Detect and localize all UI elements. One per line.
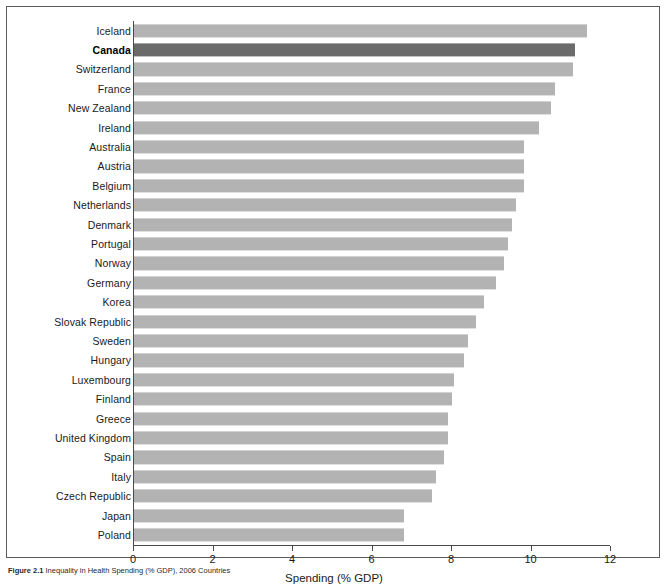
bar-row-label: Iceland (96, 25, 131, 37)
bar-row-label: Greece (96, 413, 131, 425)
bar-row-label: New Zealand (68, 102, 131, 114)
x-axis-tick-label: 6 (368, 553, 374, 565)
bar (134, 528, 404, 541)
bar (134, 412, 448, 425)
bar (134, 276, 496, 289)
x-axis-tick-label: 2 (209, 553, 215, 565)
x-axis-tick (451, 546, 452, 551)
bar-row: Netherlands (7, 196, 661, 215)
bar-row-label: Netherlands (73, 199, 131, 211)
x-axis-tick (292, 546, 293, 551)
x-axis-tick-label: 12 (604, 553, 616, 565)
bar-row-label: Norway (95, 257, 131, 269)
bar-row: Slovak Republic (7, 312, 661, 331)
bar-row: France (7, 79, 661, 98)
x-axis-tick (213, 546, 214, 551)
bar-row-label: France (98, 83, 131, 95)
bar-row-label: Canada (92, 44, 131, 56)
bar-row-label: Germany (87, 277, 131, 289)
bar-row: Switzerland (7, 60, 661, 79)
bar-row: Poland (7, 525, 661, 544)
x-axis-tick (372, 546, 373, 551)
x-axis-tick (133, 546, 134, 551)
bar (134, 102, 551, 115)
bar-row: Australia (7, 137, 661, 156)
bar-row: United Kingdom (7, 428, 661, 447)
bar-row: Portugal (7, 234, 661, 253)
bar-row-label: Portugal (91, 238, 131, 250)
bar-row-label: Denmark (88, 219, 131, 231)
figure-frame: IcelandCanadaSwitzerlandFranceNew Zealan… (6, 6, 660, 558)
bar-row: Korea (7, 293, 661, 312)
bar (134, 82, 555, 95)
bar (134, 334, 468, 347)
bar-row-label: Belgium (92, 180, 131, 192)
bar-row-label: Poland (98, 529, 131, 541)
bar (134, 354, 464, 367)
figure-caption-number: Figure 2.1 (8, 566, 43, 575)
bar (134, 199, 516, 212)
bar (134, 43, 575, 56)
bar (134, 140, 524, 153)
bar-row: Italy (7, 467, 661, 486)
bar (134, 509, 404, 522)
x-axis-tick (610, 546, 611, 551)
bar (134, 24, 587, 37)
x-axis-tick (531, 546, 532, 551)
bar-row: Denmark (7, 215, 661, 234)
bar (134, 470, 436, 483)
bar-row-label: Luxembourg (72, 374, 131, 386)
bar-row: Norway (7, 254, 661, 273)
x-axis-tick-label: 10 (524, 553, 536, 565)
bar-row-label: Sweden (92, 335, 131, 347)
bar (134, 451, 444, 464)
bar-row: Czech Republic (7, 487, 661, 506)
bar-chart-plot-area: IcelandCanadaSwitzerlandFranceNew Zealan… (7, 7, 661, 559)
bar-row: Greece (7, 409, 661, 428)
bar (134, 315, 476, 328)
figure-caption-text: Inequality in Health Spending (% GDP), 2… (46, 566, 231, 575)
bar (134, 160, 524, 173)
x-axis-tick-label: 8 (448, 553, 454, 565)
bar-row-label: Hungary (91, 354, 131, 366)
bar-row-label: Switzerland (76, 63, 131, 75)
bar (134, 179, 524, 192)
bar (134, 63, 573, 76)
bar-row: Spain (7, 448, 661, 467)
figure-caption: Figure 2.1 Inequality in Health Spending… (8, 566, 658, 575)
bar-row: Belgium (7, 176, 661, 195)
bar-row-label: Italy (111, 471, 131, 483)
bar-row: Austria (7, 157, 661, 176)
bar-row-label: United Kingdom (55, 432, 131, 444)
x-axis-tick-label: 0 (130, 553, 136, 565)
bar-row: Canada (7, 40, 661, 59)
bar (134, 490, 432, 503)
bar (134, 218, 512, 231)
bar-row: Iceland (7, 21, 661, 40)
bar-row: Ireland (7, 118, 661, 137)
x-axis-tick-label: 4 (289, 553, 295, 565)
bar-row-label: Ireland (98, 122, 131, 134)
bar-row: Sweden (7, 331, 661, 350)
bar-row: Hungary (7, 351, 661, 370)
bar-row: Japan (7, 506, 661, 525)
bar-row-label: Austria (98, 160, 131, 172)
bar-row: Finland (7, 390, 661, 409)
bar-row: Luxembourg (7, 370, 661, 389)
bar (134, 393, 452, 406)
bar-row-label: Australia (89, 141, 131, 153)
bar-row-label: Spain (104, 451, 131, 463)
bar-row-label: Korea (102, 296, 131, 308)
bar (134, 121, 539, 134)
bar (134, 257, 504, 270)
bar-row-label: Japan (102, 510, 131, 522)
bar (134, 296, 484, 309)
bar (134, 237, 508, 250)
bar-row-label: Slovak Republic (54, 316, 131, 328)
bar (134, 431, 448, 444)
bar-row-label: Finland (96, 393, 131, 405)
bar-row: New Zealand (7, 99, 661, 118)
bar-row-label: Czech Republic (56, 490, 131, 502)
bar-row: Germany (7, 273, 661, 292)
